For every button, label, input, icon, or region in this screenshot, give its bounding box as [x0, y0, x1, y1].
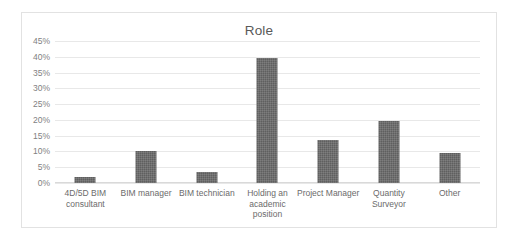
x-category-label: BIM technician	[175, 188, 239, 199]
gridline	[55, 183, 480, 184]
x-category-label: 4D/5D BIM consultant	[53, 188, 117, 209]
bar	[196, 172, 217, 183]
y-tick-label: 15%	[33, 131, 50, 141]
bar	[378, 121, 399, 183]
y-tick-label: 45%	[33, 36, 50, 46]
bar	[75, 177, 96, 183]
bar	[257, 58, 278, 183]
plot-area: 45%40%35%30%25%20%15%10%5%0% 4D/5D BIM c…	[55, 41, 480, 183]
bar-group: BIM technician	[176, 41, 237, 183]
bar-group: Other	[419, 41, 480, 183]
bar	[318, 140, 339, 183]
x-category-label: Other	[418, 188, 482, 199]
bar-group: Quantity Surveyor	[359, 41, 420, 183]
y-tick-label: 25%	[33, 99, 50, 109]
bar-group: 4D/5D BIM consultant	[55, 41, 116, 183]
bar	[136, 151, 157, 183]
bar-group: Project Manager	[298, 41, 359, 183]
bar	[439, 153, 460, 183]
y-tick-label: 20%	[33, 115, 50, 125]
x-category-label: Project Manager	[296, 188, 360, 199]
chart-title: Role	[22, 23, 496, 38]
chart-container: Role 45%40%35%30%25%20%15%10%5%0% 4D/5D …	[21, 12, 497, 228]
y-tick-label: 10%	[33, 146, 50, 156]
bar-group: BIM manager	[116, 41, 177, 183]
y-tick-label: 0%	[38, 178, 50, 188]
y-tick-label: 30%	[33, 83, 50, 93]
y-tick-label: 5%	[38, 162, 50, 172]
x-category-label: Quantity Surveyor	[357, 188, 421, 209]
y-tick-label: 35%	[33, 68, 50, 78]
y-tick-label: 40%	[33, 52, 50, 62]
x-category-label: BIM manager	[114, 188, 178, 199]
bar-group: Holding an academic position	[237, 41, 298, 183]
x-category-label: Holding an academic position	[235, 188, 299, 220]
